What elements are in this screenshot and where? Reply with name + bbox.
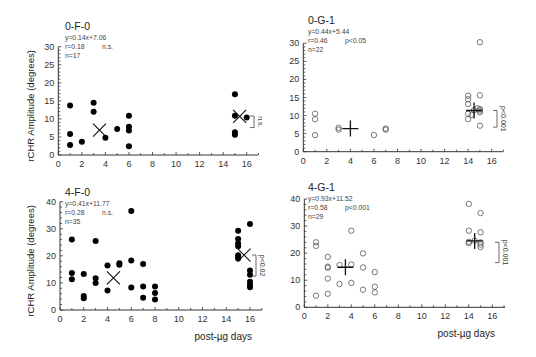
significance-bracket <box>250 116 254 128</box>
significance-bracket <box>495 242 499 262</box>
x-tick-label: 0 <box>56 159 61 169</box>
significance-bracket <box>252 255 256 276</box>
x-tick-label: 2 <box>324 156 329 166</box>
data-point <box>128 285 134 291</box>
x-tick-label: 12 <box>440 311 450 321</box>
bracket-label: n.s. <box>257 116 264 127</box>
data-point <box>232 132 238 138</box>
y-tick-label: 20 <box>46 251 56 261</box>
significance: n.s. <box>102 209 113 216</box>
x-tick-label: 6 <box>129 314 134 324</box>
data-point <box>79 139 85 145</box>
x-tick-label: 8 <box>152 314 157 324</box>
data-point <box>152 283 158 289</box>
data-point <box>126 143 132 149</box>
data-point <box>140 283 146 289</box>
data-point <box>105 288 111 294</box>
panel-title: 4-G-1 <box>308 181 335 193</box>
panel-title: 0-G-1 <box>308 14 335 26</box>
x-tick-label: 8 <box>395 156 400 166</box>
x-tick-label: 12 <box>195 159 205 169</box>
x-tick-label: 0 <box>301 156 306 166</box>
data-point <box>478 210 483 215</box>
significance: n.s. <box>102 43 113 50</box>
significance-bracket <box>493 111 497 128</box>
panel-title: 4-F-0 <box>65 186 90 198</box>
data-point <box>67 103 73 109</box>
x-tick-label: 10 <box>416 156 426 166</box>
y-tick-label: 15 <box>289 93 299 103</box>
regression-equation: y=0.93x+11.52 <box>308 195 353 203</box>
significance: p<0.001 <box>345 204 370 212</box>
data-point <box>477 123 482 128</box>
x-axis-label: post-µg days <box>195 331 252 342</box>
data-point <box>140 295 146 301</box>
x-tick-label: 4 <box>103 159 108 169</box>
data-point <box>477 93 482 98</box>
y-tick-label: 10 <box>46 278 56 288</box>
x-tick-label: 10 <box>171 159 181 169</box>
x-tick-label: 6 <box>371 156 376 166</box>
data-point <box>312 132 317 137</box>
data-point <box>244 114 250 120</box>
data-point <box>67 142 73 148</box>
data-point <box>349 262 354 267</box>
y-tick-label: 15 <box>44 96 54 106</box>
panel-title: 0-F-0 <box>65 20 90 32</box>
data-point <box>349 228 354 233</box>
x-tick-label: 4 <box>349 311 354 321</box>
y-tick-label: 30 <box>44 42 54 52</box>
panel-0-f-0: 02468101214160510152025300-F-0y=0.14x+7.… <box>25 20 264 169</box>
data-point <box>247 221 253 227</box>
data-point <box>235 228 241 234</box>
y-tick-label: 0 <box>51 305 56 315</box>
data-point <box>126 127 132 133</box>
data-point <box>312 116 317 121</box>
data-point <box>152 290 158 296</box>
y-tick-label: 10 <box>44 114 54 124</box>
correlation-r: r=0.58 <box>308 204 328 211</box>
data-point <box>69 276 75 282</box>
bracket-label: p<0.001 <box>499 106 507 132</box>
data-point <box>325 276 330 281</box>
data-point <box>371 132 376 137</box>
data-point <box>69 237 75 243</box>
data-point <box>91 109 97 115</box>
y-tick-label: 5 <box>49 132 54 142</box>
data-point <box>360 251 365 256</box>
x-tick-label: 2 <box>81 314 86 324</box>
mean-marker-plus <box>342 121 358 137</box>
bracket-label: p<0.001 <box>501 240 509 266</box>
data-point <box>128 257 134 263</box>
data-point <box>247 272 253 278</box>
x-tick-label: 16 <box>487 311 497 321</box>
sample-size: n=29 <box>308 213 324 220</box>
x-tick-label: 10 <box>174 314 184 324</box>
x-tick-label: 14 <box>463 156 473 166</box>
data-point <box>81 295 87 301</box>
x-tick-label: 16 <box>487 156 497 166</box>
data-point <box>372 269 377 274</box>
x-tick-label: 2 <box>79 159 84 169</box>
y-tick-label: 0 <box>49 150 54 160</box>
sample-size: n=17 <box>65 52 81 59</box>
data-point <box>128 208 134 214</box>
y-tick-label: 10 <box>290 275 300 285</box>
x-tick-label: 14 <box>221 314 231 324</box>
data-point <box>93 280 99 286</box>
x-tick-label: 16 <box>245 314 255 324</box>
y-tick-label: 30 <box>289 38 299 48</box>
data-point <box>126 113 132 119</box>
data-point <box>313 293 318 298</box>
data-point <box>325 291 330 296</box>
x-tick-label: 8 <box>150 159 155 169</box>
y-tick-label: 30 <box>290 221 300 231</box>
data-point <box>140 261 146 267</box>
sample-size: n=22 <box>308 46 324 53</box>
y-tick-label: 30 <box>46 224 56 234</box>
regression-equation: y=0.44x+5.44 <box>308 28 349 36</box>
data-point <box>337 281 342 286</box>
x-axis-label: post-µg days <box>438 328 495 339</box>
data-point <box>372 284 377 289</box>
x-tick-label: 14 <box>218 159 228 169</box>
